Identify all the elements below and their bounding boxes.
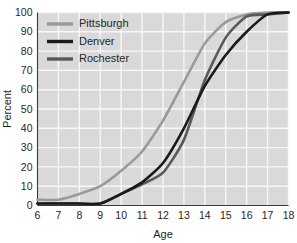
legend-label-denver: Denver — [79, 35, 115, 47]
x-tick-label: 16 — [241, 209, 253, 221]
x-tick-label: 9 — [97, 209, 103, 221]
y-tick-label: 70 — [21, 64, 33, 76]
y-tick-label: 60 — [21, 83, 33, 95]
y-axis-title: Percent — [1, 90, 13, 128]
x-tick-label: 10 — [115, 209, 127, 221]
y-tick-label: 50 — [21, 103, 33, 115]
x-tick-label: 6 — [35, 209, 41, 221]
x-tick-label: 13 — [178, 209, 190, 221]
y-tick-label: 30 — [21, 141, 33, 153]
legend-label-pittsburgh: Pittsburgh — [79, 17, 129, 29]
legend-label-rochester: Rochester — [79, 52, 129, 64]
y-tick-label: 90 — [21, 25, 33, 37]
x-tick-label: 12 — [157, 209, 169, 221]
x-axis-title: Age — [153, 228, 173, 240]
chart-container: 0102030405060708090100 67891011121314151… — [0, 0, 297, 243]
x-tick-label: 8 — [76, 209, 82, 221]
x-tick-label: 18 — [283, 209, 295, 221]
x-tick-label: 14 — [199, 209, 211, 221]
y-tick-label: 10 — [21, 180, 33, 192]
x-tick-label: 15 — [220, 209, 232, 221]
line-chart: 0102030405060708090100 67891011121314151… — [0, 0, 297, 243]
x-tick-label: 11 — [137, 209, 148, 221]
y-tick-label: 100 — [15, 6, 33, 18]
y-tick-label: 40 — [21, 122, 33, 134]
y-axis-tick-labels: 0102030405060708090100 — [15, 6, 33, 211]
x-tick-label: 17 — [262, 209, 274, 221]
y-tick-label: 80 — [21, 45, 33, 57]
x-axis-tick-labels: 6789101112131415161718 — [35, 209, 295, 221]
x-tick-label: 7 — [55, 209, 61, 221]
y-tick-label: 20 — [21, 161, 33, 173]
y-tick-label: 0 — [27, 199, 33, 211]
